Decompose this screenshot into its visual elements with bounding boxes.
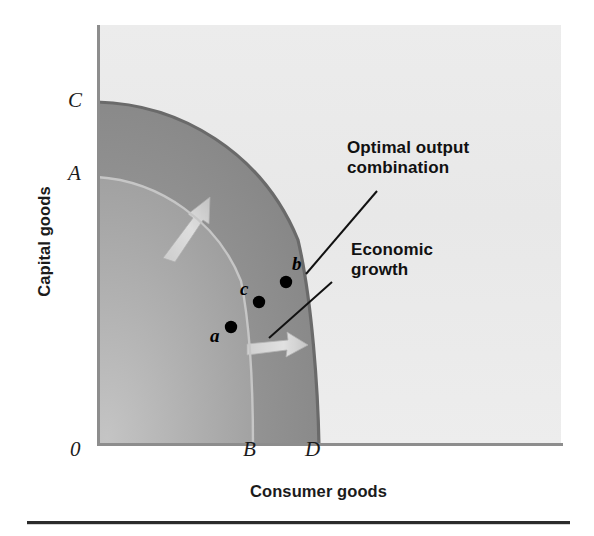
x-tick-label-B: B bbox=[243, 437, 256, 462]
x-tick-label-D: D bbox=[305, 437, 320, 462]
bottom-rule bbox=[27, 521, 570, 524]
y-axis-title: Capital goods bbox=[35, 162, 54, 322]
x-axis-title: Consumer goods bbox=[250, 482, 387, 501]
callout-economic-growth: Economic growth bbox=[351, 240, 433, 279]
point-c-marker bbox=[253, 296, 265, 308]
point-label-c: c bbox=[240, 278, 248, 300]
origin-label: 0 bbox=[70, 437, 81, 462]
y-tick-label-A: A bbox=[68, 161, 81, 186]
point-b-marker bbox=[280, 276, 292, 288]
ppf-figure: Capital goods Consumer goods C A 0 B D a… bbox=[0, 0, 594, 536]
point-label-b: b bbox=[292, 253, 302, 275]
y-tick-label-C: C bbox=[68, 88, 82, 113]
point-label-a: a bbox=[210, 325, 220, 347]
callout-optimal-output-combination: Optimal output combination bbox=[347, 138, 469, 177]
point-a-marker bbox=[225, 321, 237, 333]
